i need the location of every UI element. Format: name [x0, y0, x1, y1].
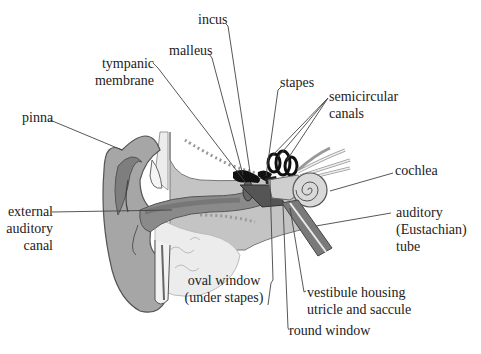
- label-external-auditory-canal: external auditory canal: [0, 203, 53, 254]
- label-auditory-tube-line1: auditory: [396, 204, 467, 221]
- label-tympanic-membrane-line2: membrane: [94, 72, 154, 89]
- label-external-auditory-canal-line3: canal: [0, 237, 53, 254]
- label-tympanic-membrane-line1: tympanic: [94, 55, 154, 72]
- label-semicircular-canals: semicircular canals: [329, 88, 398, 122]
- label-vestibule-line1: vestibule housing: [307, 284, 411, 301]
- label-auditory-tube-line2: (Eustachian): [396, 221, 467, 238]
- label-auditory-tube-line3: tube: [396, 238, 467, 255]
- label-vestibule-line2: utricle and saccule: [307, 301, 411, 318]
- label-pinna: pinna: [22, 109, 53, 126]
- label-cochlea: cochlea: [395, 162, 438, 179]
- label-malleus: malleus: [169, 42, 213, 59]
- label-round-window: round window: [289, 322, 370, 339]
- semicircular-canals-shape: [268, 151, 297, 175]
- ear-anatomy-diagram: incus malleus tympanic membrane stapes s…: [0, 0, 481, 354]
- label-semicircular-canals-line2: canals: [329, 105, 398, 122]
- label-vestibule: vestibule housing utricle and saccule: [307, 284, 411, 318]
- label-auditory-tube: auditory (Eustachian) tube: [396, 204, 467, 255]
- label-semicircular-canals-line1: semicircular: [329, 88, 398, 105]
- label-incus: incus: [198, 11, 228, 28]
- label-oval-window-line1: oval window: [172, 272, 276, 289]
- label-oval-window: oval window (under stapes): [172, 272, 276, 306]
- label-stapes: stapes: [280, 74, 314, 91]
- label-external-auditory-canal-line1: external: [0, 203, 53, 220]
- label-oval-window-line2: (under stapes): [172, 289, 276, 306]
- label-tympanic-membrane: tympanic membrane: [94, 55, 154, 89]
- label-external-auditory-canal-line2: auditory: [0, 220, 53, 237]
